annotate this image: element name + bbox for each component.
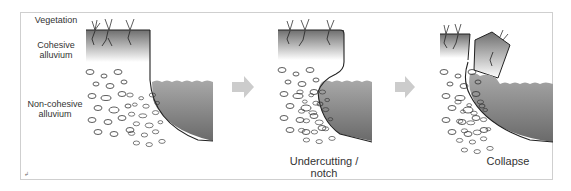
label-vegetation: Vegetation <box>28 15 84 25</box>
arrow-icon <box>395 76 415 98</box>
label-noncohesive-line1: Non-cohesive <box>22 99 88 109</box>
caption-undercutting-line1: Undercutting / <box>276 155 372 167</box>
arrow-icon <box>232 76 254 98</box>
caption-undercutting-line2: notch <box>276 167 372 179</box>
stage-1-stable-bank <box>86 19 213 147</box>
stage-3-collapse <box>440 24 553 154</box>
corner-mark-icon: ↲ <box>24 170 29 177</box>
label-cohesive-line2: alluvium <box>28 50 84 60</box>
stage-2-undercutting <box>278 19 372 144</box>
label-noncohesive-line2: alluvium <box>22 109 88 119</box>
label-cohesive-line1: Cohesive <box>28 40 84 50</box>
caption-collapse: Collapse <box>460 155 556 167</box>
